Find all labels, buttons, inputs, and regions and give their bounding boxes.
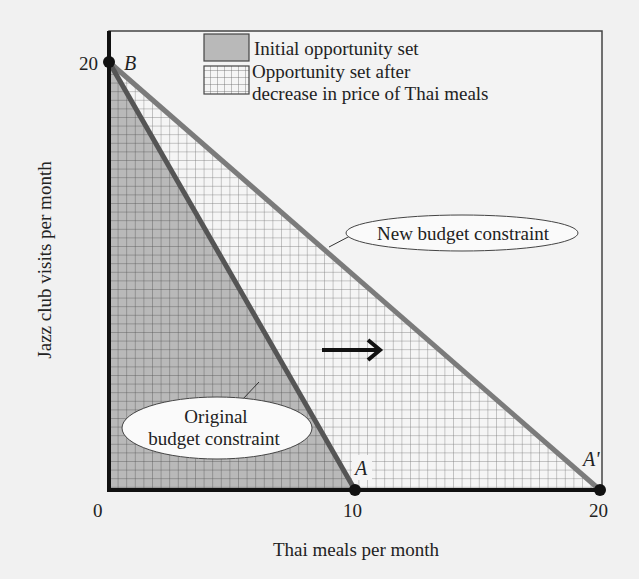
chart: B A A' 20 0 10 20 Thai meals per month J… [0,0,639,579]
y-tick-20: 20 [79,53,98,74]
callout-original-text-line1: Original [184,406,247,427]
x-tick-0: 0 [93,500,103,521]
callout-new-text: New budget constraint [377,223,550,244]
point-b-marker [103,56,115,68]
point-b-label: B [124,52,136,74]
point-a-marker [349,484,361,496]
callout-original-text-line2: budget constraint [148,428,280,449]
point-a-prime-label: A' [581,448,600,470]
legend-label-initial: Initial opportunity set [254,38,419,59]
legend-swatch-after [204,66,249,94]
x-axis-label: Thai meals per month [273,539,440,560]
legend-label-after-line1: Opportunity set after [252,61,411,82]
x-tick-10: 10 [343,500,362,521]
legend-swatch-initial [204,34,249,61]
point-a-prime-marker [594,484,606,496]
legend-label-after-line2: decrease in price of Thai meals [252,83,489,104]
y-axis-label: Jazz club visits per month [34,161,55,359]
point-a-label: A [353,457,368,479]
x-tick-20: 20 [589,500,608,521]
